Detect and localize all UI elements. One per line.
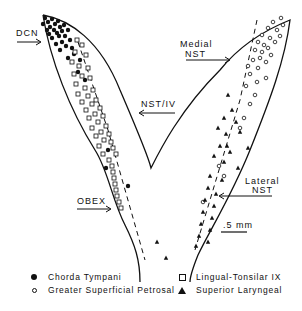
chorda-tympani-marker	[50, 17, 54, 21]
petrosal-marker	[248, 102, 252, 106]
petrosal-marker	[258, 56, 262, 60]
legend-label: Chorda Tympani	[48, 272, 121, 282]
petrosal-marker	[238, 126, 242, 130]
petrosal-marker	[281, 23, 285, 27]
legend-item-chorda-tympani: Chorda Tympani	[28, 272, 121, 282]
legend-item-lingual-tonsilar: Lingual-Tonsilar IX	[176, 272, 281, 282]
dashed-line-left	[78, 42, 145, 260]
chorda-tympani-marker	[126, 184, 130, 188]
lingual-tonsilar-marker	[107, 132, 111, 136]
superior-laryngeal-marker	[225, 144, 229, 148]
lingual-tonsilar-marker	[110, 164, 114, 168]
chorda-tympani-marker	[57, 34, 61, 38]
lingual-tonsilar-marker	[111, 170, 115, 174]
lingual-tonsilar-marker	[76, 92, 80, 96]
lingual-tonsilar-marker	[109, 140, 113, 144]
nst-outline	[43, 15, 290, 282]
chorda-tympani-marker	[41, 22, 45, 26]
petrosal-marker	[244, 84, 248, 88]
legend-label: Greater Superficial Petrosal	[48, 285, 175, 295]
superior-laryngeal-marker	[206, 240, 210, 244]
lingual-tonsilar-marker	[117, 200, 121, 204]
superior-laryngeal-marker	[212, 154, 216, 158]
lingual-tonsilar-marker	[80, 100, 84, 104]
superior-laryngeal-marker	[155, 240, 159, 244]
lingual-tonsilar-marker	[98, 106, 102, 110]
lingual-tonsilar-marker	[97, 144, 101, 148]
lingual-tonsilar-marker	[96, 120, 100, 124]
nst-diagram: DCN NST/IV OBEX Medial NST Lateral NST .…	[0, 0, 302, 311]
nst-iv-arrow	[139, 110, 175, 116]
lingual-tonsilar-marker	[84, 108, 88, 112]
superior-laryngeal-marker	[226, 93, 230, 97]
chorda-tympani-marker	[70, 46, 74, 50]
petrosal-marker	[266, 26, 270, 30]
lingual-tonsilar-marker	[115, 194, 119, 198]
chorda-tympani-marker	[66, 28, 70, 32]
medial-nst-label-1: Medial	[180, 39, 213, 49]
superior-laryngeal-marker	[210, 216, 214, 220]
petrosal-marker	[264, 76, 268, 80]
lingual-tonsilar-marker	[114, 152, 118, 156]
chorda-tympani-marker	[66, 56, 70, 60]
petrosal-marker	[278, 34, 282, 38]
superior-laryngeal-marker	[236, 166, 240, 170]
petrosal-marker	[255, 80, 259, 84]
superior-laryngeal-marker	[246, 146, 250, 150]
superior-laryngeal-marker	[220, 178, 224, 182]
superior-laryngeal-marker	[224, 132, 228, 136]
lingual-tonsilar-marker	[88, 76, 92, 80]
chorda-tympani-marker	[104, 166, 108, 170]
petrosal-marker	[253, 93, 257, 97]
lingual-tonsilar-marker	[111, 146, 115, 150]
chorda-tympani-marker	[45, 28, 49, 32]
superior-laryngeal-marker	[222, 160, 226, 164]
petrosal-marker	[242, 116, 246, 120]
dcn-label: DCN	[16, 28, 39, 38]
lingual-tonsilar-marker	[94, 98, 98, 102]
lingual-tonsilar-marker	[87, 116, 91, 120]
superior-laryngeal-marker	[228, 150, 232, 154]
petrosal-marker	[256, 66, 260, 70]
lingual-tonsilar-marker	[73, 50, 77, 54]
lingual-tonsilar-marker	[93, 112, 97, 116]
chorda-tympani-marker	[60, 29, 64, 33]
superior-laryngeal-marker	[208, 174, 212, 178]
petrosal-marker	[246, 64, 250, 68]
lingual-tonsilar-marker	[90, 126, 94, 130]
superior-laryngeal-marker	[218, 144, 222, 148]
superior-laryngeal-marker	[214, 192, 218, 196]
lingual-tonsilar-marker	[86, 94, 90, 98]
lateral-nst-label-2: NST	[252, 185, 273, 195]
lingual-tonsilar-marker	[101, 152, 105, 156]
petrosal-marker	[266, 46, 270, 50]
legend-item-superior-laryngeal: Superior Laryngeal	[176, 285, 282, 295]
petrosal-marker	[273, 40, 277, 44]
superior-laryngeal-marker	[238, 130, 242, 134]
chorda-tympani-marker	[50, 36, 54, 40]
legend-label: Lingual-Tonsilar IX	[196, 272, 281, 282]
chorda-tympani-marker	[58, 25, 62, 29]
superior-laryngeal-marker	[216, 126, 220, 130]
superior-laryngeal-marker	[234, 120, 238, 124]
petrosal-marker	[264, 60, 268, 64]
superior-laryngeal-marker	[194, 244, 198, 248]
petrosal-marker	[268, 36, 272, 40]
petrosal-marker	[251, 58, 255, 62]
chorda-tympani-marker	[60, 40, 64, 44]
petrosal-marker	[260, 50, 264, 54]
nst-iv-label: NST/IV	[141, 99, 176, 109]
lingual-tonsilar-marker	[104, 124, 108, 128]
petrosal-marker	[271, 20, 275, 24]
superior-laryngeal-marker	[212, 204, 216, 208]
chorda-tympani-marker	[83, 78, 87, 82]
chorda-tympani-marker	[46, 20, 50, 24]
lingual-tonsilar-marker	[80, 43, 84, 47]
petrosal-marker	[222, 174, 226, 178]
dcn-arrow	[17, 39, 41, 45]
chorda-tympani-marker	[63, 34, 67, 38]
lingual-tonsilar-marker	[99, 130, 103, 134]
lingual-tonsilar-marker	[90, 102, 94, 106]
lingual-tonsilar-marker	[75, 38, 79, 42]
petrosal-marker	[262, 43, 266, 47]
